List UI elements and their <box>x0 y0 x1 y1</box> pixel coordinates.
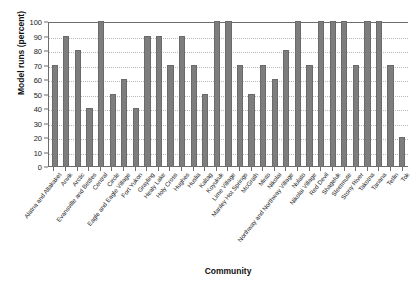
bar <box>225 21 231 166</box>
bar <box>214 21 220 166</box>
bar-slot <box>396 23 408 166</box>
bar-slot <box>350 23 362 166</box>
bar <box>260 65 266 167</box>
y-axis-tick-label: 40 <box>34 105 42 114</box>
bar <box>86 108 92 166</box>
bar <box>156 36 162 167</box>
bar <box>399 137 405 166</box>
y-axis-tick-label: 20 <box>34 134 42 143</box>
y-axis-tick-label: 50 <box>34 90 42 99</box>
bar <box>376 21 382 166</box>
bar <box>318 21 324 166</box>
bar <box>191 65 197 167</box>
bar-slot <box>107 23 119 166</box>
bar-slot <box>385 23 397 166</box>
bar <box>353 65 359 167</box>
y-axis-tick-label: 60 <box>34 76 42 85</box>
bar-slot <box>315 23 327 166</box>
bar <box>341 21 347 166</box>
bar-slot <box>200 23 212 166</box>
x-axis-label-group: Alatna and AllakaketAnvikArcticEvansvill… <box>48 171 408 249</box>
bar <box>167 65 173 167</box>
y-axis-tick-label: 30 <box>34 119 42 128</box>
bar <box>387 65 393 167</box>
x-axis-title: Community <box>48 266 408 276</box>
bar-slot <box>292 23 304 166</box>
bar-slot <box>327 23 339 166</box>
plot-area <box>48 22 408 167</box>
y-axis-tick-label: 70 <box>34 61 42 70</box>
y-axis-tick-label: 0 <box>38 163 42 172</box>
bar <box>295 21 301 166</box>
bar-slot <box>304 23 316 166</box>
bar <box>144 36 150 167</box>
x-axis-tick-label: Tok <box>399 171 410 183</box>
bar-slot <box>269 23 281 166</box>
bar-slot <box>211 23 223 166</box>
bar-slot <box>95 23 107 166</box>
bar-slot <box>188 23 200 166</box>
bar <box>110 94 116 167</box>
y-axis-tick-label: 100 <box>29 18 42 27</box>
bar-slot <box>118 23 130 166</box>
bar-slot <box>234 23 246 166</box>
bar-slot <box>142 23 154 166</box>
bar-slot <box>130 23 142 166</box>
bar-slot <box>49 23 61 166</box>
x-axis-tick-label: Tetlin <box>385 171 399 187</box>
bar <box>202 94 208 167</box>
bar-slot <box>338 23 350 166</box>
bar-chart-figure: Model runs (percent) 0102030405060708090… <box>0 0 420 291</box>
bar-slot <box>61 23 73 166</box>
y-axis-tick-label: 10 <box>34 148 42 157</box>
y-axis-tick-label: 80 <box>34 47 42 56</box>
bar-series <box>49 23 408 166</box>
bar <box>237 65 243 167</box>
bar-slot <box>373 23 385 166</box>
x-axis-tick-label: Alatna and Allakaket <box>22 171 62 219</box>
bar-slot <box>362 23 374 166</box>
bar-slot <box>257 23 269 166</box>
bar-slot <box>176 23 188 166</box>
y-axis-tick-label: 90 <box>34 32 42 41</box>
bar-slot <box>72 23 84 166</box>
bar-slot <box>84 23 96 166</box>
bar <box>133 108 139 166</box>
bar <box>283 50 289 166</box>
bar <box>63 36 69 167</box>
bar <box>364 21 370 166</box>
bar <box>248 94 254 167</box>
bar-slot <box>153 23 165 166</box>
bar <box>75 50 81 166</box>
bar <box>306 65 312 167</box>
bar <box>272 79 278 166</box>
bar-slot <box>223 23 235 166</box>
bar <box>52 65 58 167</box>
bar-slot <box>281 23 293 166</box>
y-axis-tick-group: 0102030405060708090100 <box>0 22 48 167</box>
bar-slot <box>246 23 258 166</box>
bar <box>98 21 104 166</box>
bar <box>179 36 185 167</box>
bar <box>121 79 127 166</box>
bar <box>330 21 336 166</box>
bar-slot <box>165 23 177 166</box>
